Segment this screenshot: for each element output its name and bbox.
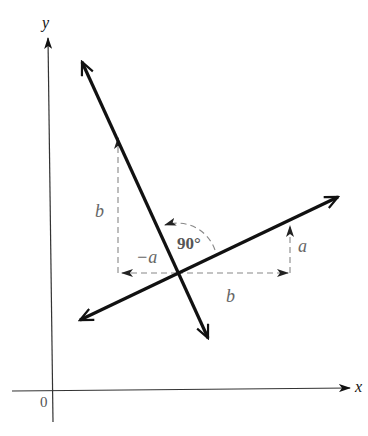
diagram-canvas: y x 0 b −a 90° b a [0, 0, 368, 436]
label-right-horizontal-b: b [226, 286, 235, 306]
y-axis [48, 38, 53, 422]
x-axis [12, 388, 350, 391]
steep-line [82, 62, 208, 338]
label-left-horizontal-minus-a: −a [136, 247, 157, 267]
y-axis-label: y [40, 14, 50, 32]
label-angle-90: 90° [177, 234, 201, 253]
shallow-line [80, 197, 338, 320]
label-left-vertical-b: b [95, 201, 104, 221]
label-right-vertical-a: a [298, 236, 307, 256]
x-axis-label: x [354, 378, 362, 395]
origin-label: 0 [40, 394, 48, 410]
